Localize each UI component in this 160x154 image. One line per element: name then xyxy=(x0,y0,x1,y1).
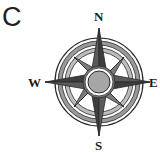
west-label: W xyxy=(28,76,41,89)
north-label: N xyxy=(94,10,103,23)
east-label: E xyxy=(149,76,158,89)
compass-rose: N S W E xyxy=(0,0,160,154)
south-label: S xyxy=(95,139,102,152)
compass-rose-icon xyxy=(0,0,160,154)
